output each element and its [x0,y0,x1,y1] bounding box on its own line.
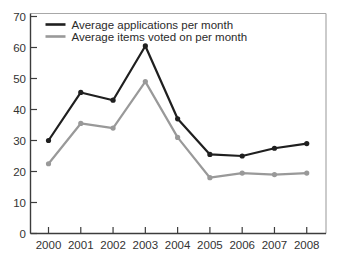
x-axis-tick-label: 2001 [68,239,94,251]
y-axis-tick-label: 40 [13,104,26,116]
series-marker-1 [304,170,309,175]
series-marker-1 [46,161,51,166]
line-chart-figure: 0102030405060702000200120022003200420052… [0,0,343,266]
line-chart: 0102030405060702000200120022003200420052… [0,0,343,266]
x-axis-tick-label: 2000 [36,239,62,251]
y-axis-tick-label: 10 [13,197,26,209]
series-marker-1 [110,126,115,131]
x-axis-tick-label: 2007 [262,239,288,251]
series-marker-1 [240,170,245,175]
series-marker-1 [78,121,83,126]
y-axis-tick-label: 70 [13,11,26,23]
series-marker-0 [272,146,277,151]
y-axis-tick-label: 60 [13,42,26,54]
series-marker-0 [207,152,212,157]
x-axis-tick-label: 2006 [229,239,255,251]
series-marker-0 [46,138,51,143]
series-marker-1 [175,135,180,140]
x-axis-tick-label: 2004 [165,239,191,251]
y-axis-tick-label: 0 [20,228,26,240]
x-axis-tick-label: 2003 [133,239,159,251]
series-marker-0 [175,116,180,121]
series-marker-1 [207,175,212,180]
series-marker-0 [240,153,245,158]
x-axis-tick-label: 2008 [294,239,320,251]
series-line-1 [49,82,307,178]
x-axis-tick-label: 2005 [197,239,223,251]
series-marker-1 [143,79,148,84]
y-axis-tick-label: 20 [13,166,26,178]
series-marker-1 [272,172,277,177]
y-axis-tick-label: 30 [13,135,26,147]
legend-label-0: Average applications per month [72,19,234,31]
legend-label-1: Average items voted on per month [72,31,248,43]
series-marker-0 [78,90,83,95]
series-marker-0 [143,43,148,48]
x-axis-tick-label: 2002 [100,239,126,251]
series-marker-0 [304,141,309,146]
y-axis-tick-label: 50 [13,73,26,85]
series-marker-0 [110,98,115,103]
